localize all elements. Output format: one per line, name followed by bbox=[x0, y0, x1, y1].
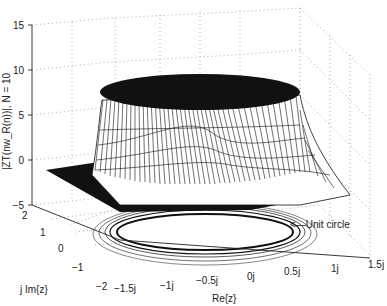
floor-contours bbox=[93, 203, 317, 265]
surface-plot: 15 10 5 0 −5 2 1 0 −1 −2 −1.5j −1j −0.5j… bbox=[0, 0, 387, 306]
svg-text:−1.5j: −1.5j bbox=[114, 283, 136, 294]
x-axis-label: Re{z} bbox=[212, 293, 237, 304]
z-axis-label: |ZT(nw_R(n))|, N = 10 bbox=[1, 72, 12, 170]
svg-text:1j: 1j bbox=[331, 263, 339, 274]
svg-text:5: 5 bbox=[18, 110, 24, 121]
svg-text:0j: 0j bbox=[247, 271, 255, 282]
svg-text:0: 0 bbox=[58, 243, 64, 254]
svg-text:2: 2 bbox=[22, 210, 28, 221]
z-tick-labels: 15 10 5 0 −5 bbox=[13, 20, 25, 211]
y-axis-label: j Im{z} bbox=[19, 284, 48, 295]
x-tick-labels: −1.5j −1j −0.5j 0j 0.5j 1j 1.5j bbox=[114, 259, 384, 294]
mesh-surface bbox=[92, 74, 350, 205]
y-tick-labels: 2 1 0 −1 −2 bbox=[22, 210, 108, 292]
plateau-top bbox=[100, 74, 300, 110]
svg-text:0.5j: 0.5j bbox=[284, 266, 300, 277]
svg-text:1.5j: 1.5j bbox=[368, 259, 384, 270]
svg-text:10: 10 bbox=[13, 65, 25, 76]
svg-text:−2: −2 bbox=[96, 281, 108, 292]
svg-text:−1j: −1j bbox=[160, 280, 174, 291]
svg-text:15: 15 bbox=[13, 20, 25, 31]
svg-text:−1: −1 bbox=[72, 262, 84, 273]
svg-text:−0.5j: −0.5j bbox=[196, 275, 218, 286]
svg-text:0: 0 bbox=[18, 155, 24, 166]
svg-text:1: 1 bbox=[40, 227, 46, 238]
unit-circle-annotation: <—Unit circle bbox=[290, 219, 350, 230]
